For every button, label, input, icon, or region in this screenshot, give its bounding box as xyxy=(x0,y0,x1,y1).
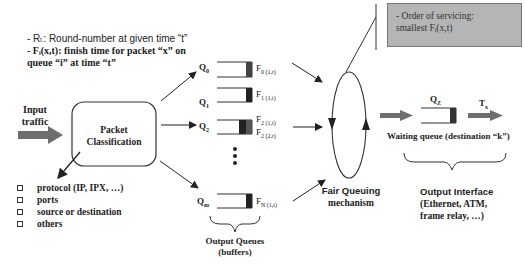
checkbox-icon xyxy=(17,209,23,215)
servicing-order-note: - Order of servicing: smallest Fᵢ(x,t) xyxy=(387,3,522,47)
criteria-item: source or destination xyxy=(17,206,123,218)
arrow-to-q0 xyxy=(161,72,196,101)
input-label-2: traffic xyxy=(12,116,58,128)
criteria-text: source or destination xyxy=(37,206,122,218)
transmit-arrow xyxy=(468,110,503,121)
input-label-1: Input xyxy=(12,104,58,116)
criteria-text: ports xyxy=(37,194,58,206)
note-line-2: smallest Fᵢ(x,t) xyxy=(396,22,521,34)
criteria-item: others xyxy=(17,218,123,230)
packet-classification-label: Packet Classification xyxy=(72,124,156,148)
output-interface-line3: frame relay, …) xyxy=(420,210,493,222)
fair-queuing-cycle xyxy=(332,72,366,178)
classifier-label-2: Classification xyxy=(72,136,156,148)
fair-queuing-line2: mechanism xyxy=(316,197,386,209)
finish-time-q0: F0 (1,t) xyxy=(256,63,276,75)
legend-round-number: - Rₜ: Round-number at given time “t” xyxy=(27,33,187,45)
transmit-label: Tx xyxy=(479,98,488,110)
legend-finish-time: - Fᵢ(x,t): finish time for packet “x” on xyxy=(27,45,186,57)
criteria-item: protocol (IP, IPX, …) xyxy=(17,182,123,194)
classification-criteria-list: protocol (IP, IPX, …) ports source or de… xyxy=(17,182,123,230)
queue-q2-buffer xyxy=(217,120,252,134)
cycle-down-arrow-icon xyxy=(328,118,336,130)
criteria-text: others xyxy=(37,218,62,230)
finish-time-q2-packet2: F2 (2,t) xyxy=(256,127,276,139)
checkbox-icon xyxy=(17,185,23,191)
fair-queuing-caption: Fair Queuing mechanism xyxy=(316,185,386,209)
note-connector xyxy=(346,17,376,72)
fair-queuing-line1: Fair Queuing xyxy=(316,185,386,197)
arrow-q0-to-fq xyxy=(292,63,322,82)
arrow-to-qm xyxy=(160,161,198,188)
note-line-1: - Order of servicing: xyxy=(396,10,521,22)
classifier-label-1: Packet xyxy=(72,124,156,136)
waiting-queue-caption: Waiting queue (destination “k”) xyxy=(387,131,510,141)
output-queues-caption: Output Queues (buffers) xyxy=(195,236,275,258)
input-traffic-label: Input traffic xyxy=(12,104,58,128)
criteria-arrow xyxy=(58,152,80,178)
checkbox-icon xyxy=(17,197,23,203)
output-interface-brace xyxy=(404,153,506,170)
criteria-item: ports xyxy=(17,194,123,206)
input-arrow xyxy=(18,126,63,144)
ellipsis-dots xyxy=(233,147,237,165)
criteria-text: protocol (IP, IPX, …) xyxy=(37,182,123,194)
finish-time-qm: FN (1,t) xyxy=(256,196,277,208)
fq-output-arrow xyxy=(380,110,413,121)
output-interface-caption: Output Interface (Ethernet, ATM, frame r… xyxy=(420,186,493,222)
output-queues-line2: (buffers) xyxy=(195,247,275,258)
waiting-queue-name: QZ xyxy=(430,94,441,106)
queue-qm-label: Qm xyxy=(197,196,209,208)
queue-qm-buffer xyxy=(217,194,252,208)
legend-finish-time-cont: queue “i” at time “t” xyxy=(27,57,116,69)
queue-q0-buffer xyxy=(217,62,252,77)
queue-q1-buffer xyxy=(217,88,252,102)
output-interface-line1: Output Interface xyxy=(420,186,493,198)
queue-q2-label: Q2 xyxy=(199,121,209,133)
output-queues-line1: Output Queues xyxy=(195,236,275,247)
queue-q0-label: Q0 xyxy=(199,62,209,74)
finish-time-q1: F1 (1,t) xyxy=(256,89,276,101)
queue-q1-label: Q1 xyxy=(199,97,209,109)
checkbox-icon xyxy=(17,221,23,227)
cycle-up-arrow-icon xyxy=(362,118,370,130)
waiting-queue-buffer xyxy=(421,108,456,123)
finish-time-q2-packet1: F2 (1,t) xyxy=(256,114,276,126)
output-queues-brace xyxy=(210,216,260,232)
output-interface-line2: (Ethernet, ATM, xyxy=(420,198,493,210)
